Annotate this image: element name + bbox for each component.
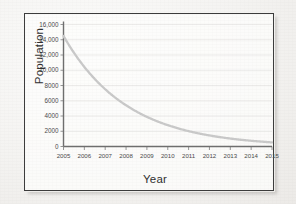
- x-axis-title: Year: [100, 173, 210, 185]
- x-axis-tick-labels: 2005200620072008200920102011201220132014…: [57, 152, 280, 159]
- x-tick-label: 2006: [78, 152, 92, 159]
- chart-figure: 16,00014,00012,00010,0008000600040002000…: [0, 0, 296, 204]
- x-tick-label: 2012: [203, 152, 217, 159]
- y-tick-label: 8000: [44, 82, 59, 89]
- x-tick-label: 2008: [119, 152, 133, 159]
- x-tick-label: 2013: [224, 152, 238, 159]
- y-axis-title: Population: [33, 11, 45, 101]
- y-tick-label: 4000: [44, 112, 59, 119]
- x-tick-label: 2011: [182, 152, 196, 159]
- y-tick-label: 6000: [44, 97, 59, 104]
- x-tick-label: 2010: [161, 152, 175, 159]
- y-tick-label: 0: [55, 143, 59, 150]
- x-tick-label: 2007: [98, 152, 112, 159]
- x-tick-label: 2015: [265, 152, 279, 159]
- x-tick-label: 2005: [57, 152, 71, 159]
- population-decay-curve: [64, 36, 273, 142]
- x-tick-label: 2009: [140, 152, 154, 159]
- y-tick-label: 2000: [44, 127, 59, 134]
- x-tick-label: 2014: [244, 152, 258, 159]
